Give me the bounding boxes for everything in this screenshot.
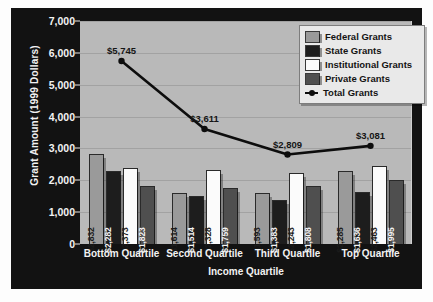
x-axis-tick-labels: Bottom QuartileSecond QuartileThird Quar…	[80, 248, 412, 262]
line-marker[interactable]	[284, 151, 290, 157]
legend-item[interactable]: Private Grants	[305, 72, 419, 85]
line-marker[interactable]	[367, 143, 373, 149]
legend-item[interactable]: Institutional Grants	[305, 58, 419, 71]
x-tick-label: Second Quartile	[166, 248, 243, 259]
chart-panel: Grant Amount (1999 Dollars) 01,0002,0003…	[11, 8, 422, 289]
line-marker[interactable]	[118, 58, 124, 64]
y-axis-ticks: 01,0002,0003,0004,0005,0006,0007,000	[27, 8, 75, 289]
legend-swatch-shadow	[319, 62, 322, 71]
figure: Grant Amount (1999 Dollars) 01,0002,0003…	[0, 0, 433, 302]
line-value-label: $3,081	[356, 130, 385, 141]
legend-item-label: Institutional Grants	[325, 59, 412, 70]
line-marker[interactable]	[201, 126, 207, 132]
y-tick-label: 2,000	[31, 174, 75, 186]
legend-item-label: State Grants	[325, 45, 382, 56]
legend-swatch-icon	[305, 45, 320, 57]
y-tick-label: 0	[31, 238, 75, 250]
legend-item[interactable]: Total Grants	[305, 86, 419, 99]
line-value-label: $2,809	[273, 139, 302, 150]
y-tick-label: 1,000	[31, 206, 75, 218]
y-tick-label: 4,000	[31, 111, 75, 123]
line-value-label: $5,745	[107, 45, 136, 56]
legend-item-label: Federal Grants	[325, 31, 392, 42]
y-tick-label: 3,000	[31, 142, 75, 154]
legend-swatch-shadow	[319, 76, 322, 85]
y-tick-label: 6,000	[31, 47, 75, 59]
legend-item[interactable]: State Grants	[305, 44, 419, 57]
legend: Federal GrantsState GrantsInstitutional …	[299, 25, 425, 104]
legend-item[interactable]: Federal Grants	[305, 30, 419, 43]
legend-swatch-shadow	[319, 48, 322, 57]
x-tick-label: Top Quartile	[341, 248, 399, 259]
legend-line-dot	[309, 90, 315, 96]
legend-item-label: Total Grants	[323, 87, 378, 98]
y-tick-label: 7,000	[31, 15, 75, 27]
x-axis-title: Income Quartile	[80, 266, 412, 277]
y-tick-label: 5,000	[31, 79, 75, 91]
legend-item-label: Private Grants	[325, 73, 390, 84]
legend-swatch-icon	[305, 31, 320, 43]
x-tick-label: Bottom Quartile	[84, 248, 160, 259]
legend-swatch-icon	[305, 59, 320, 71]
legend-swatch-shadow	[319, 34, 322, 43]
legend-swatch-icon	[305, 73, 320, 85]
legend-line-marker-icon	[305, 88, 318, 98]
x-tick-label: Third Quartile	[255, 248, 321, 259]
line-value-label: $3,611	[190, 113, 219, 124]
